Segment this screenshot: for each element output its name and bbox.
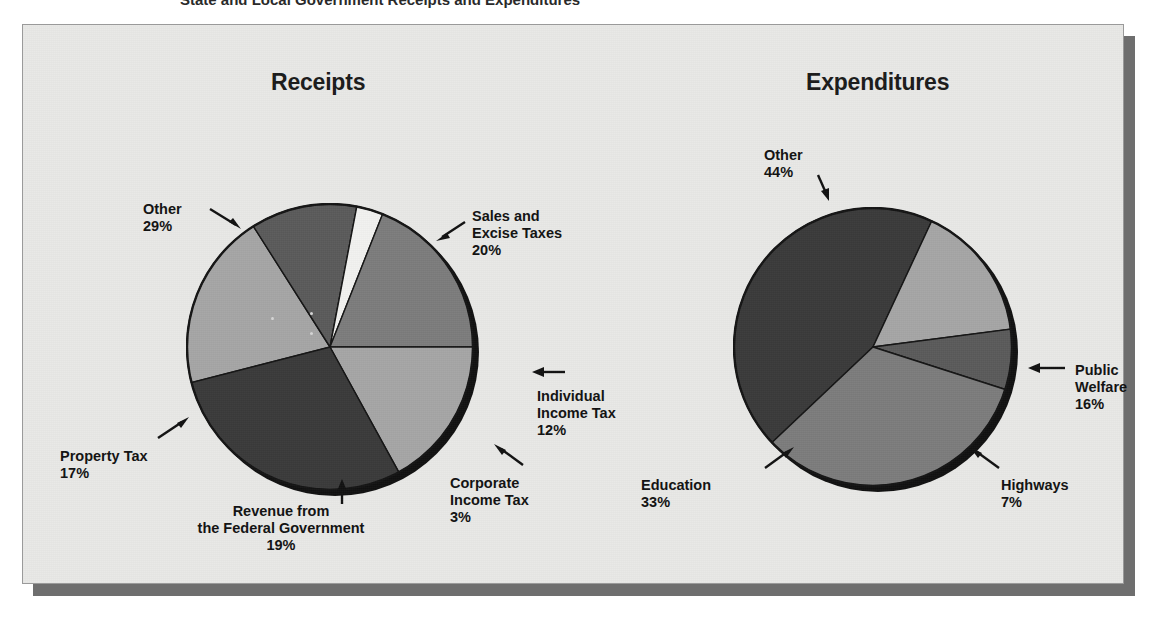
leader-arrow-icon — [968, 445, 1002, 475]
label-expenditures-welfare-value: 16% — [1075, 396, 1127, 413]
label-receipts-revenue-value: 19% — [171, 537, 391, 554]
label-receipts-other: Other 29% — [143, 201, 182, 235]
leader-arrow-icon — [763, 445, 797, 475]
print-speckle-icon — [271, 317, 274, 320]
label-expenditures-welfare-name: Public — [1075, 362, 1127, 379]
label-receipts-corporate-name: Corporate — [450, 475, 529, 492]
label-receipts-other-value: 29% — [143, 218, 182, 235]
leader-arrow-icon — [335, 478, 349, 510]
leader-arrow-icon — [492, 442, 526, 472]
leader-arrow-icon — [1027, 361, 1067, 379]
label-receipts-revenue-name2: the Federal Government — [171, 520, 391, 537]
label-expenditures-public-welfare: Public Welfare 16% — [1075, 362, 1127, 413]
label-expenditures-highways-name: Highways — [1001, 477, 1069, 494]
pie-chart-receipts — [186, 203, 474, 491]
label-receipts-individual-name: Individual — [537, 388, 616, 405]
label-receipts-corporate-income-tax: Corporate Income Tax 3% — [450, 475, 529, 526]
label-receipts-sales-name: Sales and — [472, 208, 562, 225]
pie-receipts-svg — [186, 203, 474, 491]
label-receipts-revenue-name: Revenue from — [171, 503, 391, 520]
print-speckle-icon — [310, 312, 313, 315]
leader-arrow-icon — [815, 173, 833, 207]
label-expenditures-education-name: Education — [641, 477, 711, 494]
label-expenditures-other-value: 44% — [764, 164, 803, 181]
label-receipts-individual-value: 12% — [537, 422, 616, 439]
label-receipts-sales-and-excise-taxes: Sales and Excise Taxes 20% — [472, 208, 562, 259]
label-receipts-other-name: Other — [143, 201, 182, 218]
label-receipts-individual-income-tax: Individual Income Tax 12% — [537, 388, 616, 439]
label-receipts-property-name: Property Tax — [60, 448, 148, 465]
leader-arrow-icon — [156, 415, 192, 445]
label-expenditures-other-name: Other — [764, 147, 803, 164]
label-receipts-individual-name2: Income Tax — [537, 405, 616, 422]
leader-arrow-icon — [434, 220, 468, 248]
chart-title-expenditures: Expenditures — [806, 69, 949, 96]
label-expenditures-welfare-name2: Welfare — [1075, 379, 1127, 396]
label-expenditures-other: Other 44% — [764, 147, 803, 181]
print-speckle-icon — [310, 332, 313, 335]
label-expenditures-highways: Highways 7% — [1001, 477, 1069, 511]
chart-title-receipts: Receipts — [271, 69, 365, 96]
label-receipts-corporate-name2: Income Tax — [450, 492, 529, 509]
top-caption: State and Local Government Receipts and … — [0, 0, 1158, 9]
label-receipts-revenue-from-federal-government: Revenue from the Federal Government 19% — [171, 503, 391, 554]
label-receipts-sales-name2: Excise Taxes — [472, 225, 562, 242]
leader-arrow-icon — [208, 207, 246, 237]
label-expenditures-highways-value: 7% — [1001, 494, 1069, 511]
label-receipts-property-tax: Property Tax 17% — [60, 448, 148, 482]
figure-panel: Receipts Other 29% — [22, 24, 1124, 584]
label-receipts-property-value: 17% — [60, 465, 148, 482]
label-receipts-corporate-value: 3% — [450, 509, 529, 526]
label-expenditures-education: Education 33% — [641, 477, 711, 511]
label-receipts-sales-value: 20% — [472, 242, 562, 259]
top-caption-text: State and Local Government Receipts and … — [180, 0, 580, 8]
leader-arrow-icon — [531, 365, 567, 383]
label-expenditures-education-value: 33% — [641, 494, 711, 511]
